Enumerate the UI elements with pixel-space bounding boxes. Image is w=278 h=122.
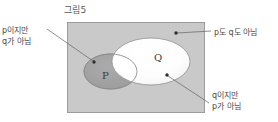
callout-neither-line1: p도 q도 아님: [214, 27, 257, 38]
callout-dot-p-not-q: [92, 60, 95, 63]
callout-q-not-p-line2: p가 아님: [212, 101, 241, 112]
callout-neither-p-nor-q: p도 q도 아님: [214, 27, 257, 38]
callout-p-not-q-line1: p이지만: [2, 25, 31, 36]
set-label-p: P: [102, 70, 109, 81]
callout-p-not-q-line2: q가 아님: [2, 36, 31, 47]
callout-q-not-p: q이지만 p가 아님: [212, 90, 241, 112]
venn-diagram-figure: 그림5: [0, 0, 278, 122]
callout-p-not-q: p이지만 q가 아님: [2, 25, 31, 47]
callout-dot-neither: [174, 31, 177, 34]
callout-dot-q-not-p: [165, 73, 168, 76]
set-label-q: Q: [154, 52, 162, 63]
callout-q-not-p-line1: q이지만: [212, 90, 241, 101]
